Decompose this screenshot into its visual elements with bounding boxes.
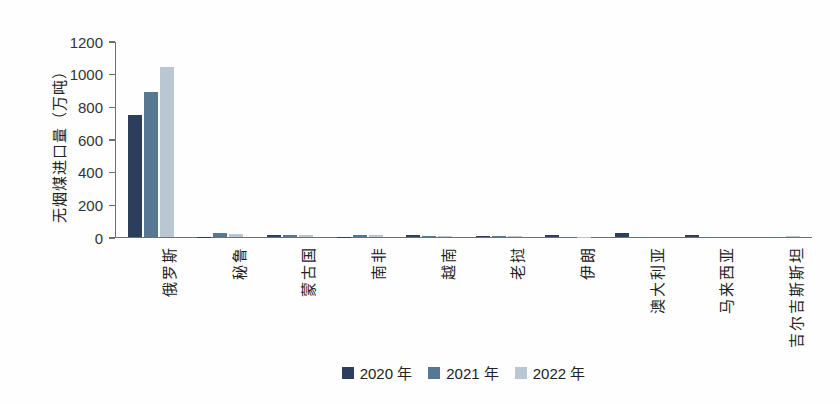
- y-tick-label: 0: [55, 231, 103, 246]
- bar-group: [255, 42, 325, 237]
- legend-label: 2022 年: [533, 362, 586, 383]
- bar: [337, 237, 351, 238]
- y-tick-mark: [109, 205, 115, 207]
- bar: [283, 235, 297, 237]
- bar: [545, 235, 559, 238]
- bar: [128, 115, 142, 238]
- y-tick-mark: [109, 237, 115, 239]
- bar-group: [534, 42, 604, 237]
- bar-group: [186, 42, 256, 237]
- bar: [229, 234, 243, 237]
- bar: [685, 235, 699, 237]
- y-tick-mark: [109, 107, 115, 109]
- bar-group: [394, 42, 464, 237]
- bar: [197, 237, 211, 238]
- bar: [561, 237, 575, 238]
- bar: [422, 236, 436, 238]
- legend-label: 2020 年: [360, 362, 413, 383]
- bar: [476, 236, 490, 238]
- bar: [299, 235, 313, 237]
- legend-swatch: [515, 367, 527, 379]
- bar-group: [603, 42, 673, 237]
- y-tick-label: 200: [55, 198, 103, 213]
- bar: [492, 236, 506, 237]
- bar: [508, 236, 522, 238]
- bar: [353, 235, 367, 237]
- bar: [438, 236, 452, 237]
- legend: 2020 年2021 年2022 年: [115, 362, 812, 383]
- bar: [160, 67, 174, 237]
- bar: [144, 92, 158, 237]
- y-tick-label: 400: [55, 165, 103, 180]
- y-tick-label: 800: [55, 100, 103, 115]
- y-tick-mark: [109, 172, 115, 174]
- bar: [267, 235, 281, 238]
- bar-group: [116, 42, 186, 237]
- legend-item: 2020 年: [342, 362, 413, 383]
- legend-item: 2022 年: [515, 362, 586, 383]
- chart-figure: 无烟煤进口量（万吨） 020040060080010001200 俄罗斯秘鲁蒙古…: [0, 0, 840, 404]
- legend-item: 2021 年: [428, 362, 499, 383]
- y-tick-mark: [109, 74, 115, 76]
- bar: [615, 233, 629, 237]
- bar: [406, 235, 420, 237]
- bar-group: [464, 42, 534, 237]
- bar-group: [325, 42, 395, 237]
- bar-group: [673, 42, 743, 237]
- bar: [213, 233, 227, 237]
- y-tick-label: 600: [55, 133, 103, 148]
- legend-label: 2021 年: [446, 362, 499, 383]
- y-tick-label: 1000: [55, 67, 103, 82]
- legend-swatch: [428, 367, 440, 379]
- y-tick-mark: [109, 139, 115, 141]
- y-tick-label: 1200: [55, 35, 103, 50]
- bar: [786, 236, 800, 237]
- legend-swatch: [342, 367, 354, 379]
- plot-area: [115, 42, 812, 238]
- bar: [369, 235, 383, 237]
- bar-group: [742, 42, 812, 237]
- y-tick-mark: [109, 41, 115, 43]
